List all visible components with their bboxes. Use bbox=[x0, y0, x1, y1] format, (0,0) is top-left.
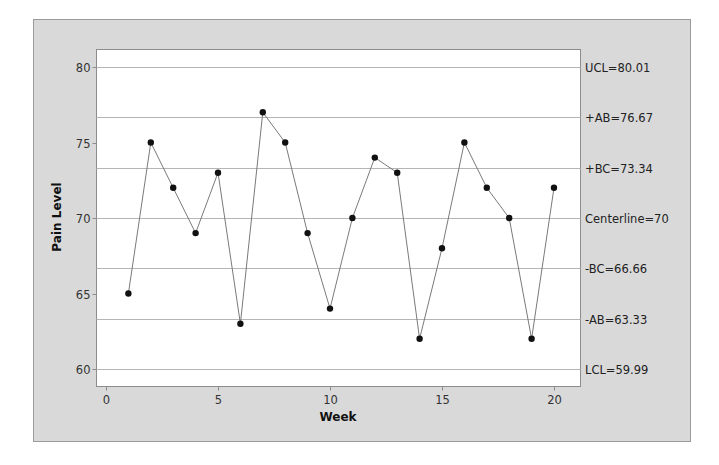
y-tick-label: 70 bbox=[76, 212, 91, 226]
ref-label-lcl: LCL=59.99 bbox=[585, 363, 648, 377]
x-tick-label: 0 bbox=[103, 393, 110, 407]
data-point-week-17 bbox=[484, 185, 490, 191]
ref-label--ab: -AB=63.33 bbox=[585, 313, 647, 327]
data-point-week-8 bbox=[282, 139, 288, 145]
ref-label--bc: +BC=73.34 bbox=[585, 162, 653, 176]
y-tick-label: 60 bbox=[76, 363, 91, 377]
data-point-week-19 bbox=[528, 336, 534, 342]
data-point-week-12 bbox=[372, 154, 378, 160]
ref-label--bc: -BC=66.66 bbox=[585, 262, 647, 276]
y-tick-label: 65 bbox=[76, 288, 91, 302]
data-point-week-20 bbox=[551, 185, 557, 191]
x-axis-title: Week bbox=[319, 410, 357, 424]
x-tick-label: 5 bbox=[215, 393, 222, 407]
data-point-week-1 bbox=[125, 290, 131, 296]
y-axis-title: Pain Level bbox=[50, 182, 64, 251]
data-point-week-14 bbox=[416, 336, 422, 342]
data-point-week-5 bbox=[215, 170, 221, 176]
ref-label--ab: +AB=76.67 bbox=[585, 111, 653, 125]
data-point-week-3 bbox=[170, 185, 176, 191]
chart-canvas: UCL=80.01+AB=76.67+BC=73.34Centerline=70… bbox=[0, 0, 719, 465]
data-point-week-7 bbox=[260, 109, 266, 115]
data-point-week-11 bbox=[349, 215, 355, 221]
data-point-week-2 bbox=[148, 139, 154, 145]
y-tick-label: 80 bbox=[76, 61, 91, 75]
data-point-week-18 bbox=[506, 215, 512, 221]
x-tick-label: 15 bbox=[435, 393, 450, 407]
ref-label-centerline: Centerline=70 bbox=[585, 212, 669, 226]
data-point-week-9 bbox=[304, 230, 310, 236]
data-point-week-13 bbox=[394, 170, 400, 176]
data-point-week-6 bbox=[237, 321, 243, 327]
data-point-week-10 bbox=[327, 305, 333, 311]
ref-label-ucl: UCL=80.01 bbox=[585, 61, 650, 75]
x-tick-label: 20 bbox=[547, 393, 562, 407]
y-tick-label: 75 bbox=[76, 137, 91, 151]
x-tick-label: 10 bbox=[323, 393, 338, 407]
data-point-week-4 bbox=[192, 230, 198, 236]
data-point-week-15 bbox=[439, 245, 445, 251]
control-chart: UCL=80.01+AB=76.67+BC=73.34Centerline=70… bbox=[0, 0, 719, 465]
data-point-week-16 bbox=[461, 139, 467, 145]
